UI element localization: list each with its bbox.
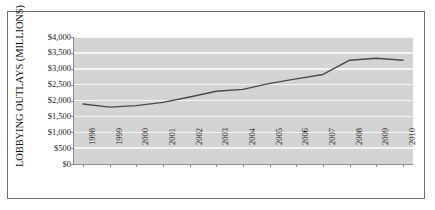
y-axis-tick-mark bbox=[70, 37, 73, 38]
x-axis-tick-label: 2004 bbox=[247, 128, 257, 168]
y-axis-tick-mark bbox=[70, 69, 73, 70]
y-axis-tick-label: $0 bbox=[11, 159, 71, 169]
y-axis-tick-mark bbox=[70, 53, 73, 54]
y-axis-tick-label: $3,000 bbox=[11, 63, 71, 73]
x-axis-tick-label: 2008 bbox=[354, 128, 364, 168]
x-axis-tick-label: 2002 bbox=[194, 128, 204, 168]
x-axis-tick-label: 2000 bbox=[140, 128, 150, 168]
x-axis-tick-label: 2009 bbox=[380, 128, 390, 168]
y-axis-tick-label: $500 bbox=[11, 143, 71, 153]
y-axis-tick-mark bbox=[70, 101, 73, 102]
y-axis-tick-label: $2,000 bbox=[11, 95, 71, 105]
chart-outer-frame: LOBBYING OUTLAYS (MILLIONS) $0$500$1,000… bbox=[7, 11, 425, 199]
y-axis-tick-label: $3,500 bbox=[11, 47, 71, 57]
y-axis-tick-mark bbox=[70, 116, 73, 117]
y-axis-tick-mark bbox=[70, 164, 73, 165]
y-axis-tick-mark bbox=[70, 132, 73, 133]
x-axis-tick-label: 2005 bbox=[274, 128, 284, 168]
y-axis-tick-labels: $0$500$1,000$1,500$2,000$2,500$3,000$3,5… bbox=[11, 37, 71, 164]
chart-figure: LOBBYING OUTLAYS (MILLIONS) $0$500$1,000… bbox=[0, 0, 435, 210]
y-axis-tick-label: $4,000 bbox=[11, 32, 71, 42]
y-axis-line bbox=[73, 37, 74, 164]
x-axis-tick-label: 1999 bbox=[114, 128, 124, 168]
x-axis-tick-label: 2003 bbox=[220, 128, 230, 168]
y-axis-tick-mark bbox=[70, 85, 73, 86]
x-axis-tick-label: 2006 bbox=[300, 128, 310, 168]
x-axis-tick-label: 2001 bbox=[167, 128, 177, 168]
y-axis-tick-mark bbox=[70, 148, 73, 149]
y-axis-tick-label: $1,500 bbox=[11, 111, 71, 121]
x-axis-tick-label: 2010 bbox=[407, 128, 417, 168]
x-axis-tick-label: 1998 bbox=[87, 128, 97, 168]
y-axis-tick-label: $2,500 bbox=[11, 79, 71, 89]
y-axis-tick-label: $1,000 bbox=[11, 127, 71, 137]
plot-wrapper: $0$500$1,000$1,500$2,000$2,500$3,000$3,5… bbox=[73, 37, 421, 176]
line-series-lobbying-outlays bbox=[83, 58, 403, 107]
x-axis-tick-label: 2007 bbox=[327, 128, 337, 168]
x-axis-tick-labels: 1998199920002001200220032004200520062007… bbox=[73, 166, 413, 206]
